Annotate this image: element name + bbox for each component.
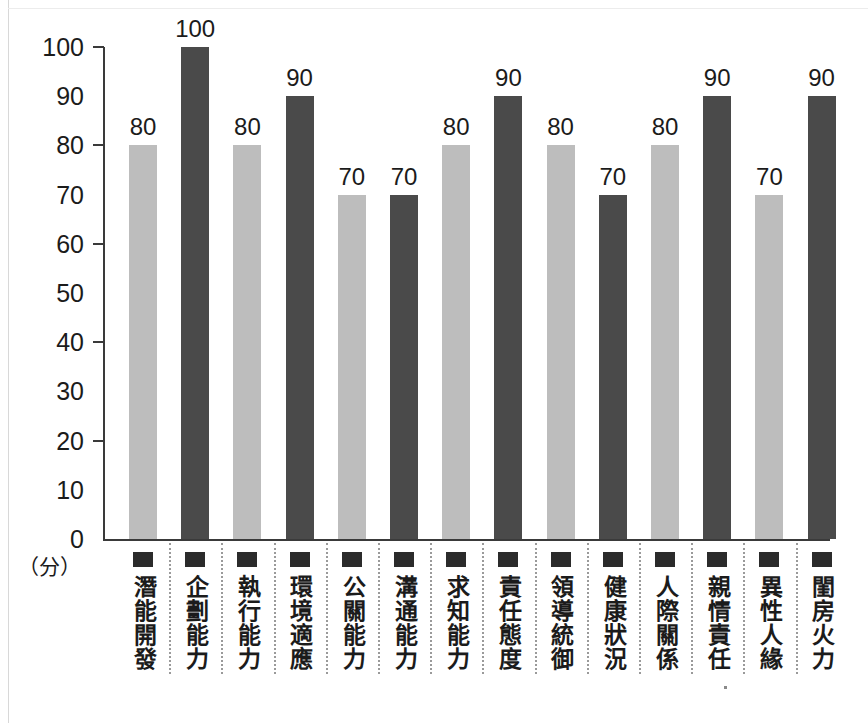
bar-group[interactable]: 80 <box>442 47 470 539</box>
category-marker-square-icon <box>185 552 205 567</box>
bar[interactable] <box>390 195 418 539</box>
category-label-3[interactable]: 執行能力 <box>221 552 273 675</box>
bar[interactable] <box>599 195 627 539</box>
category-label-7[interactable]: 求知能力 <box>430 552 482 675</box>
bar-value-label: 70 <box>741 165 797 189</box>
category-label-text: 人際關係 <box>653 575 676 671</box>
bar-value-label: 70 <box>376 165 432 189</box>
bar-value-label: 90 <box>689 66 745 90</box>
bar-group[interactable]: 90 <box>703 47 731 539</box>
category-label-1[interactable]: 潛能開發 <box>117 552 169 675</box>
bar-value-label: 100 <box>167 17 223 41</box>
category-label-4[interactable]: 環境適應 <box>274 552 326 675</box>
bar-chart: 1009080706050403020100 （分） 8010080907070… <box>0 0 868 723</box>
chart-page: 1009080706050403020100 （分） 8010080907070… <box>0 0 868 723</box>
bar[interactable] <box>286 96 314 539</box>
bar[interactable] <box>703 96 731 539</box>
bar[interactable] <box>547 145 575 539</box>
bar-value-label: 80 <box>219 115 275 139</box>
bar-value-label: 90 <box>480 66 536 90</box>
category-label-text: 領導統御 <box>549 575 572 671</box>
category-marker-square-icon <box>603 552 623 567</box>
category-marker-square-icon <box>498 552 518 567</box>
category-marker-square-icon <box>551 552 571 567</box>
bars-layer: 80100809070708090807080907090 <box>0 47 868 539</box>
category-label-6[interactable]: 溝通能力 <box>378 552 430 675</box>
category-label-text: 異性人緣 <box>758 575 781 671</box>
bar-value-label: 80 <box>428 115 484 139</box>
category-label-text: 責任態度 <box>497 575 520 671</box>
bar-group[interactable]: 70 <box>390 47 418 539</box>
bar[interactable] <box>442 145 470 539</box>
bar-value-label: 80 <box>637 115 693 139</box>
category-label-text: 溝通能力 <box>392 575 415 671</box>
bar[interactable] <box>129 145 157 539</box>
category-label-8[interactable]: 責任態度 <box>482 552 534 675</box>
bar-value-label: 80 <box>115 115 171 139</box>
category-label-12[interactable]: 親情責任 <box>691 552 743 675</box>
category-marker-square-icon <box>133 552 153 567</box>
category-marker-square-icon <box>342 552 362 567</box>
bar[interactable] <box>338 195 366 539</box>
bar-group[interactable]: 70 <box>755 47 783 539</box>
category-label-text: 環境適應 <box>288 575 311 671</box>
category-label-text: 求知能力 <box>444 575 467 671</box>
bar[interactable] <box>755 195 783 539</box>
bar[interactable] <box>808 96 836 539</box>
category-marker-square-icon <box>759 552 779 567</box>
bar-value-label: 90 <box>272 66 328 90</box>
category-label-11[interactable]: 人際關係 <box>639 552 691 675</box>
bar[interactable] <box>494 96 522 539</box>
bar-group[interactable]: 80 <box>233 47 261 539</box>
category-label-text: 公關能力 <box>340 575 363 671</box>
category-label-text: 潛能開發 <box>131 575 154 671</box>
category-label-13[interactable]: 異性人緣 <box>743 552 795 675</box>
bar-value-label: 90 <box>794 66 850 90</box>
category-label-2[interactable]: 企劃能力 <box>169 552 221 675</box>
bar-group[interactable]: 90 <box>808 47 836 539</box>
bar-value-label: 70 <box>324 165 380 189</box>
bar-group[interactable]: 90 <box>494 47 522 539</box>
category-marker-square-icon <box>655 552 675 567</box>
category-label-14[interactable]: 閨房火力 <box>796 552 848 675</box>
bar[interactable] <box>233 145 261 539</box>
bar[interactable] <box>181 47 209 539</box>
category-marker-square-icon <box>446 552 466 567</box>
bar-group[interactable]: 80 <box>547 47 575 539</box>
scan-speck <box>724 686 727 689</box>
bar-value-label: 70 <box>585 165 641 189</box>
category-label-5[interactable]: 公關能力 <box>326 552 378 675</box>
bar-group[interactable]: 80 <box>651 47 679 539</box>
bar-group[interactable]: 90 <box>286 47 314 539</box>
bar[interactable] <box>651 145 679 539</box>
category-marker-square-icon <box>290 552 310 567</box>
category-label-text: 健康狀況 <box>601 575 624 671</box>
category-marker-square-icon <box>394 552 414 567</box>
category-label-10[interactable]: 健康狀況 <box>587 552 639 675</box>
category-label-text: 親情責任 <box>705 575 728 671</box>
bar-group[interactable]: 70 <box>599 47 627 539</box>
x-axis-line <box>103 539 830 541</box>
category-label-text: 企劃能力 <box>183 575 206 671</box>
bar-group[interactable]: 100 <box>181 47 209 539</box>
category-label-text: 閨房火力 <box>810 575 833 671</box>
y-axis-unit-label: （分） <box>18 550 81 580</box>
bar-group[interactable]: 80 <box>129 47 157 539</box>
category-marker-square-icon <box>812 552 832 567</box>
category-label-9[interactable]: 領導統御 <box>535 552 587 675</box>
category-label-text: 執行能力 <box>236 575 259 671</box>
bar-value-label: 80 <box>533 115 589 139</box>
category-marker-square-icon <box>707 552 727 567</box>
category-marker-square-icon <box>237 552 257 567</box>
bar-group[interactable]: 70 <box>338 47 366 539</box>
